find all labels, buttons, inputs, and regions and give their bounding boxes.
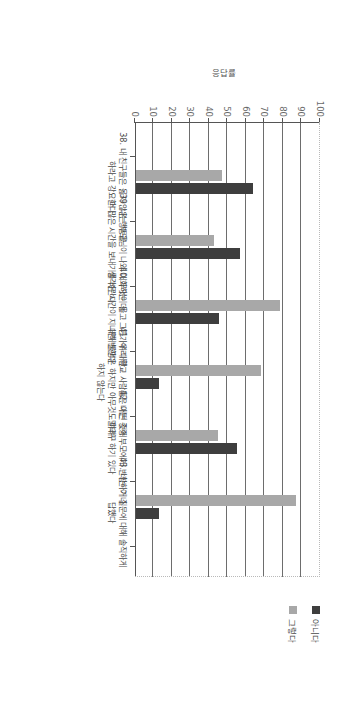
bar <box>136 183 253 194</box>
legend-item-geureotda: 그렇다 <box>287 606 299 643</box>
bar <box>136 248 240 259</box>
bar <box>136 443 237 454</box>
y-axis-tick-label: 10 <box>149 91 159 117</box>
y-axis-tick-mark <box>282 118 283 123</box>
bar-group <box>136 156 320 221</box>
y-axis-tick-mark <box>227 118 228 123</box>
y-axis-tick-mark <box>134 118 135 123</box>
x-axis-category-labels: 38. 내 친구들은 옳지 않은 행동을 하라고 강요한다39. 나는 부모님이… <box>4 122 128 577</box>
bar <box>136 508 159 519</box>
y-axis-tick-mark <box>264 118 265 123</box>
chart-canvas: 응답률 0102030405060708090100 아니다 그렇다 38. 내… <box>0 0 346 702</box>
bar-group <box>136 286 320 351</box>
y-axis-tick-label: 60 <box>241 91 251 117</box>
bar-group <box>136 351 320 416</box>
y-axis-tick-label: 100 <box>315 91 325 117</box>
y-axis-tick-mark <box>190 118 191 123</box>
bar-group <box>136 416 320 481</box>
y-axis-tick-mark <box>319 118 320 123</box>
y-axis-tick-label: 20 <box>167 91 177 117</box>
bar <box>136 235 214 246</box>
plot-area: 0102030405060708090100 <box>135 122 320 577</box>
chart-figure: 응답률 0102030405060708090100 아니다 그렇다 38. 내… <box>0 0 346 702</box>
bar <box>136 313 219 324</box>
legend-label-anida: 아니다 <box>310 619 322 643</box>
x-axis-tick-mark <box>130 546 136 547</box>
legend-swatch-geureotda <box>289 606 297 614</box>
y-axis-tick-label: 40 <box>204 91 214 117</box>
legend-item-anida: 아니다 <box>310 606 322 643</box>
bar <box>136 365 261 376</box>
bar <box>136 170 222 181</box>
bar <box>136 378 159 389</box>
y-axis-tick-mark <box>301 118 302 123</box>
y-axis-tick-label: 90 <box>297 91 307 117</box>
y-axis-title: 응답률 <box>212 66 236 78</box>
x-axis-category-label: 43. 나는 이 질문에 대해 솔직하게 답했다 <box>106 453 128 571</box>
y-axis-tick-label: 0 <box>130 91 140 117</box>
legend-label-geureotda: 그렇다 <box>287 619 299 643</box>
bar-group <box>136 221 320 286</box>
y-axis-tick-label: 70 <box>260 91 270 117</box>
bar-group <box>136 481 320 546</box>
y-axis-tick-label: 50 <box>223 91 233 117</box>
bar <box>136 300 280 311</box>
chart-legend: 아니다 그렇다 <box>287 606 322 643</box>
legend-swatch-anida <box>312 606 320 614</box>
y-axis-tick-mark <box>245 118 246 123</box>
y-axis-tick-mark <box>208 118 209 123</box>
y-axis-tick-label: 80 <box>278 91 288 117</box>
y-axis-tick-mark <box>171 118 172 123</box>
y-axis-tick-mark <box>153 118 154 123</box>
bar <box>136 495 296 506</box>
bar <box>136 430 218 441</box>
y-axis-tick-label: 30 <box>186 91 196 117</box>
